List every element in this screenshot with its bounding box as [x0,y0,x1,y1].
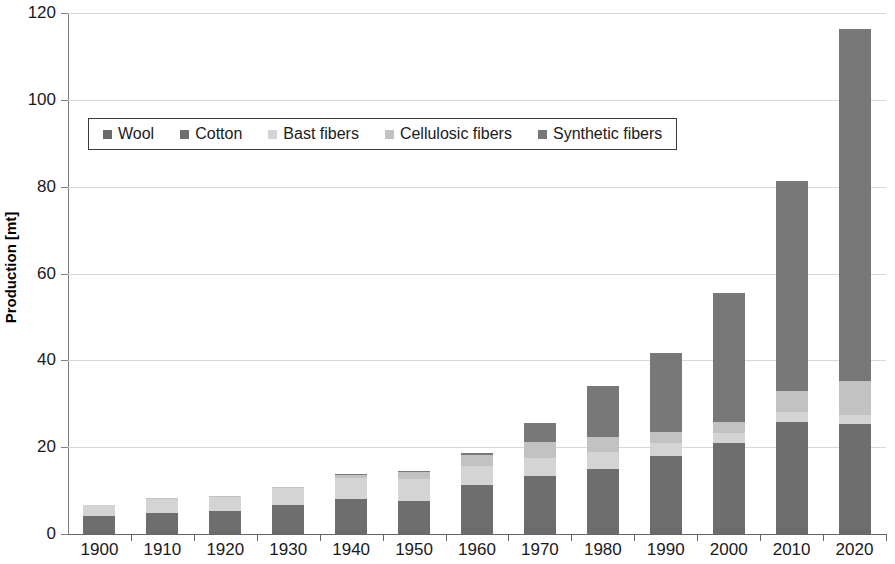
bar-segment[interactable] [83,505,115,515]
bar-segment[interactable] [272,505,304,530]
bar-group[interactable] [524,13,556,534]
bar-group[interactable] [839,13,871,534]
bar-segment[interactable] [398,530,430,534]
legend-item[interactable]: Bast fibers [268,125,359,143]
bar-group[interactable] [398,13,430,534]
bar-segment[interactable] [335,474,367,477]
bar-segment[interactable] [209,497,241,510]
bar-segment[interactable] [650,456,682,526]
bar-segment[interactable] [650,527,682,534]
bar-segment[interactable] [209,511,241,531]
chart-legend: WoolCottonBast fibersCellulosic fibersSy… [88,118,677,150]
y-tick-label: 20 [0,437,56,457]
x-tick-label: 1980 [571,540,635,560]
bar-segment[interactable] [776,181,808,390]
legend-item[interactable]: Cotton [180,125,242,143]
legend-item[interactable]: Synthetic fibers [538,125,662,143]
y-tick-mark [61,534,68,535]
bar-segment[interactable] [587,386,619,437]
legend-item[interactable]: Cellulosic fibers [385,125,512,143]
bar-segment[interactable] [272,487,304,488]
bar-segment[interactable] [209,496,241,497]
bar-segment[interactable] [272,488,304,505]
bar-segment[interactable] [461,466,493,484]
bar-segment[interactable] [461,455,493,467]
legend-swatch-icon [268,130,277,139]
legend-swatch-icon [538,130,547,139]
bar-segment[interactable] [713,433,745,443]
legend-item[interactable]: Wool [103,125,154,143]
bar-group[interactable] [650,13,682,534]
bar-group[interactable] [713,13,745,534]
y-tick-mark [61,274,68,275]
bar-segment[interactable] [776,412,808,422]
bar-segment[interactable] [524,442,556,457]
bar-segment[interactable] [776,528,808,534]
bar-segment[interactable] [146,513,178,531]
bar-segment[interactable] [398,501,430,530]
bar-segment[interactable] [335,478,367,500]
bar-group[interactable] [776,13,808,534]
bar-segment[interactable] [839,415,871,424]
legend-swatch-icon [103,130,112,139]
bar-segment[interactable] [713,443,745,527]
x-tick-label: 1910 [130,540,194,560]
bar-segment[interactable] [776,391,808,413]
legend-label: Synthetic fibers [553,125,662,143]
bar-segment[interactable] [461,485,493,528]
bar-group[interactable] [83,13,115,534]
bar-segment[interactable] [524,458,556,477]
bar-group[interactable] [146,13,178,534]
y-tick-mark [61,187,68,188]
bar-segment[interactable] [146,498,178,513]
bar-segment[interactable] [713,422,745,433]
y-tick-mark [61,13,68,14]
bar-segment[interactable] [461,453,493,455]
bar-segment[interactable] [398,472,430,479]
x-tick-label: 1990 [634,540,698,560]
bar-segment[interactable] [209,531,241,534]
bar-segment[interactable] [650,432,682,442]
bar-group[interactable] [272,13,304,534]
y-tick-label: 40 [0,350,56,370]
y-tick-label: 100 [0,90,56,110]
bar-segment[interactable] [83,516,115,531]
bar-group[interactable] [461,13,493,534]
x-tick-label: 1900 [67,540,131,560]
bar-segment[interactable] [839,29,871,381]
bar-segment[interactable] [461,528,493,534]
bar-segment[interactable] [524,476,556,527]
legend-swatch-icon [180,130,189,139]
x-tick-label: 1940 [319,540,383,560]
bar-segment[interactable] [272,530,304,534]
bar-segment[interactable] [839,381,871,415]
bar-segment[interactable] [587,452,619,469]
bar-segment[interactable] [650,443,682,456]
bar-segment[interactable] [587,469,619,527]
x-tick-label: 1970 [508,540,572,560]
legend-swatch-icon [385,130,394,139]
bar-group[interactable] [587,13,619,534]
bar-segment[interactable] [587,527,619,534]
bar-segment[interactable] [713,293,745,422]
bar-segment[interactable] [83,531,115,534]
bar-segment[interactable] [398,479,430,501]
bar-segment[interactable] [146,531,178,534]
bar-segment[interactable] [524,423,556,443]
bar-segment[interactable] [839,424,871,529]
bar-segment[interactable] [650,353,682,432]
y-tick-mark [61,447,68,448]
bar-segment[interactable] [524,527,556,534]
bar-segment[interactable] [839,529,871,534]
legend-label: Cotton [195,125,242,143]
bar-group[interactable] [335,13,367,534]
x-tick-label: 1960 [445,540,509,560]
bar-segment[interactable] [713,527,745,534]
bar-segment[interactable] [335,499,367,529]
y-tick-label: 120 [0,3,56,23]
bar-segment[interactable] [335,530,367,534]
bar-segment[interactable] [776,422,808,528]
bar-group[interactable] [209,13,241,534]
bar-segment[interactable] [587,437,619,451]
bar-segment[interactable] [398,471,430,472]
